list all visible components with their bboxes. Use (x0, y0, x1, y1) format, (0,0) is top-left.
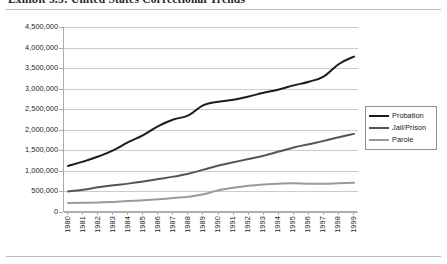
y-axis-tick-label: 3,500,000 (0, 64, 58, 71)
y-axis-tick-label: 4,500,000 (0, 23, 58, 30)
exhibit-caption-text: Exhibit 5.5: United States Correctional … (8, 0, 245, 5)
y-axis-tick-label: 3,000,000 (0, 85, 58, 92)
y-axis-tick-label: 500,000 (0, 188, 58, 195)
chart-page: Exhibit 5.5: United States Correctional … (0, 0, 447, 264)
legend-item: Probation (369, 110, 434, 122)
y-axis-tick-mark (59, 212, 63, 213)
x-axis-tick-label: 1991 (228, 216, 237, 233)
caption-divider-top (6, 9, 441, 10)
y-axis-tick-label: 1,000,000 (0, 167, 58, 174)
x-axis-tick-label: 1981 (78, 216, 87, 233)
line-swatch-icon (369, 139, 389, 141)
chart-legend: ProbationJail/PrisonParole (365, 106, 437, 150)
x-axis-tick-label: 1997 (318, 216, 327, 233)
plot-area (63, 27, 357, 212)
page-divider-bottom (6, 256, 441, 257)
y-axis-tick-label: 4,000,000 (0, 44, 58, 51)
line-swatch-icon (369, 127, 389, 129)
x-axis-tick-label: 1998 (333, 216, 342, 233)
y-axis-tick-label: 2,000,000 (0, 126, 58, 133)
x-axis-tick-label: 1999 (349, 216, 358, 233)
x-axis-tick-label: 1990 (213, 216, 222, 233)
x-axis-tick-label: 1984 (123, 216, 132, 233)
line-swatch-icon (369, 115, 389, 117)
y-axis-tick-label: 1,500,000 (0, 147, 58, 154)
series-lines (64, 27, 358, 212)
series-line-probation (68, 57, 354, 166)
x-axis-tick-label: 1987 (168, 216, 177, 233)
x-axis-tick-label: 1994 (273, 216, 282, 233)
x-axis-tick-label: 1986 (153, 216, 162, 233)
y-axis-tick-label: 0 (0, 208, 58, 215)
x-axis-tick-label: 1992 (243, 216, 252, 233)
legend-item: Parole (369, 134, 434, 146)
y-axis-tick-label: 2,500,000 (0, 106, 58, 113)
x-axis-tick-label: 1996 (303, 216, 312, 233)
x-axis-tick-label: 1993 (258, 216, 267, 233)
x-axis-tick-label: 1989 (198, 216, 207, 233)
exhibit-caption: Exhibit 5.5: United States Correctional … (0, 0, 447, 9)
x-axis-tick-label: 1985 (138, 216, 147, 233)
legend-item: Jail/Prison (369, 122, 434, 134)
x-axis-tick-label: 1983 (108, 216, 117, 233)
legend-item-label: Parole (392, 136, 413, 143)
gridline (64, 212, 358, 213)
x-axis-tick-label: 1995 (288, 216, 297, 233)
x-axis-tick-label: 1988 (183, 216, 192, 233)
legend-item-label: Jail/Prison (392, 124, 426, 131)
x-axis-tick-label: 1982 (93, 216, 102, 233)
legend-item-label: Probation (392, 112, 424, 119)
x-axis-tick-label: 1980 (63, 216, 72, 233)
